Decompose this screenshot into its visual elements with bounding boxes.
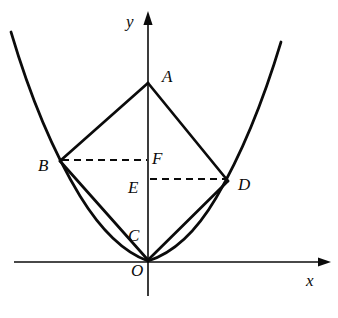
segment-BC [60, 161, 148, 260]
parabola-path [11, 32, 281, 261]
point-label-F: F [152, 150, 162, 167]
y-axis-arrow-head [143, 11, 152, 25]
segment-AB [60, 83, 148, 161]
geometry-figure: A B C D E F O y x [0, 0, 338, 318]
x-axis-arrow-head [318, 258, 331, 267]
point-label-A: A [162, 68, 172, 85]
quadrilateral-edges [60, 83, 228, 260]
y-axis-label: y [126, 13, 134, 30]
parabola-curve [11, 32, 281, 261]
x-axis-label: x [306, 272, 314, 289]
point-label-O: O [131, 262, 143, 279]
segment-CD [148, 181, 228, 260]
point-label-C: C [128, 227, 139, 244]
point-label-B: B [38, 157, 48, 174]
geometry-canvas [0, 0, 338, 318]
point-label-E: E [128, 179, 138, 196]
axes-group [14, 11, 331, 296]
point-label-D: D [238, 176, 250, 193]
dashed-helper-lines [62, 160, 227, 179]
